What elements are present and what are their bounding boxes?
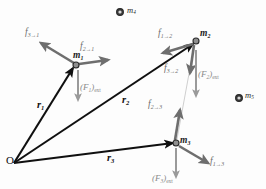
mass-dot-m2 [193, 38, 199, 44]
internal-force-label-f1-to-2: f1→2 [158, 29, 172, 40]
external-force-label-F1-ext: (F1)ext [80, 83, 101, 93]
internal-force-label-f1-to-3: f1→3 [210, 157, 224, 168]
mass-dot-m4 [117, 9, 124, 16]
origin-label: O [6, 155, 14, 166]
mass-dot-m5 [236, 95, 243, 102]
mass-label-m4: m4 [127, 6, 136, 16]
internal-force-vector-f1-to-2 [163, 44, 193, 53]
mass-dot-m3 [173, 140, 179, 146]
mass-label-m5: m5 [245, 91, 254, 101]
external-force-label-F2-ext: (F2)ext [198, 70, 219, 80]
internal-force-vector-f3-to-2 [190, 45, 194, 73]
position-vector-r1 [14, 68, 73, 163]
position-vector-label-r2: r2 [122, 95, 129, 106]
external-force-label-F3-ext: (F3)ext [152, 174, 173, 184]
position-vector-label-r1: r1 [37, 100, 44, 111]
internal-force-vector-f3-to-1 [41, 43, 74, 63]
internal-force-label-f3-to-1: f3→1 [25, 28, 39, 39]
mass-label-m3: m3 [180, 136, 190, 147]
position-vector-label-r3: r3 [107, 153, 114, 164]
mass-dot-m1 [73, 62, 79, 68]
diagram-vector-layer [0, 0, 266, 189]
mass-label-m1: m1 [73, 51, 83, 62]
internal-force-label-f3-to-2: f3→2 [164, 64, 178, 75]
internal-force-vector-f2-to-1 [79, 60, 108, 64]
physics-diagram-canvas: O r1r2r3f3→1f2→1f1→2f3→2f2→3f1→3(F1)ext(… [0, 0, 266, 189]
internal-force-label-f2-to-3: f2→3 [148, 100, 162, 111]
internal-force-vector-f1-to-3 [179, 146, 208, 163]
mass-label-m2: m2 [200, 29, 210, 40]
